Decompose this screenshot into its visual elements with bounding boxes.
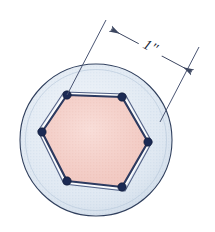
- vertex-dot: [144, 138, 152, 146]
- vertex-dot: [63, 177, 71, 185]
- vertex-dot: [118, 93, 126, 101]
- vertex-dot: [118, 183, 126, 191]
- hexagon-circle-diagram: 1": [0, 0, 215, 232]
- figure-root: 1": [0, 0, 215, 232]
- vertex-dot: [38, 128, 46, 136]
